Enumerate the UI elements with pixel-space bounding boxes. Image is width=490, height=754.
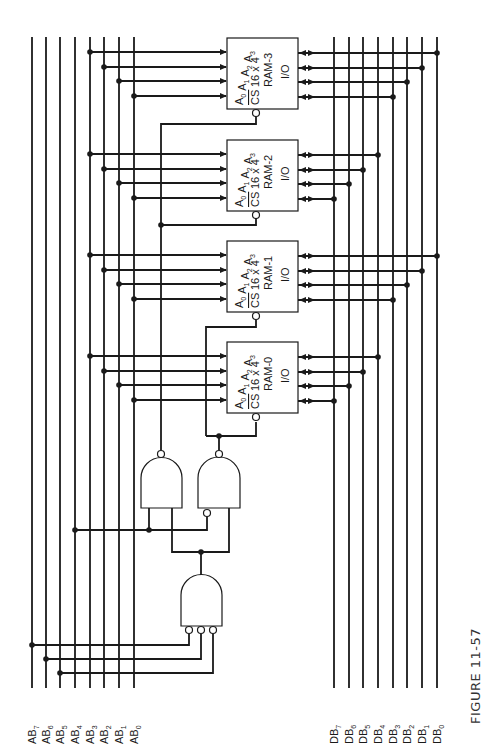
svg-text:DB2: DB2: [401, 725, 415, 744]
junction-cs-upper: [158, 222, 164, 228]
nand-output-bubble-lower: [216, 451, 223, 458]
inverter-bubble-ab4: [204, 510, 211, 517]
label-db6: DB6: [343, 725, 357, 744]
inverter-bubble-ab7: [186, 627, 193, 634]
svg-text:DB1: DB1: [416, 725, 430, 744]
cs-bubble: [253, 414, 260, 421]
label-db7: DB7: [328, 725, 342, 744]
wire-cs-ram2: [161, 218, 256, 225]
io-label: I/O: [279, 166, 291, 181]
nand-gate-upper-select: [141, 457, 182, 508]
svg-text:AB3: AB3: [84, 725, 98, 744]
inverter-bubble-ab5: [210, 627, 217, 634]
ram-chips: A0A1A2A3CS16 x 4RAM-3I/OA0A1A2A3CS16 x 4…: [87, 38, 440, 421]
ram-chip-ram-1: A0A1A2A3CS16 x 4RAM-1I/O: [87, 241, 440, 320]
wire-ab5-input: [60, 634, 213, 673]
junction-ab5: [57, 670, 63, 676]
junction-ab4-gate: [146, 527, 152, 533]
ram-name-label: RAM-0: [262, 357, 274, 391]
nand-gate-lower-select: [198, 457, 240, 508]
ram-chip-ram-2: A0A1A2A3CS16 x 4RAM-2I/O: [87, 140, 381, 219]
svg-text:AB1: AB1: [113, 725, 127, 744]
ram-size-label: 16 x 4: [249, 361, 261, 391]
io-label: I/O: [279, 267, 291, 282]
cs-bubble: [253, 212, 260, 219]
junction-cs-lower: [216, 433, 222, 439]
label-ab4: AB4: [69, 725, 83, 744]
label-db4: DB4: [372, 725, 386, 744]
svg-text:DB4: DB4: [372, 725, 386, 744]
bus-labels: AB7AB6AB5AB4AB3AB2AB1AB0DB7DB6DB5DB4DB3D…: [26, 725, 445, 744]
svg-text:DB3: DB3: [387, 725, 401, 744]
wire-ab7-input: [32, 634, 189, 645]
ram-size-label: 16 x 4: [249, 260, 261, 290]
wire-cs-ram0: [206, 422, 256, 436]
label-ab0: AB0: [128, 725, 142, 744]
cs-bubble: [253, 110, 260, 117]
chip-select-label: CS: [249, 293, 261, 308]
io-label: I/O: [279, 368, 291, 383]
label-db0: DB0: [431, 725, 445, 744]
svg-text:AB6: AB6: [40, 725, 54, 744]
ram-name-label: RAM-1: [262, 256, 274, 290]
ram-size-label: 16 x 4: [249, 159, 261, 189]
svg-text:DB7: DB7: [328, 725, 342, 744]
wire-ab4: [75, 517, 207, 530]
and-gate-enable: [181, 575, 222, 627]
label-ab1: AB1: [113, 725, 127, 744]
ram-chip-ram-0: A0A1A2A3CS16 x 4RAM-0I/O: [87, 342, 381, 421]
chip-select-label: CS: [249, 394, 261, 409]
label-ab2: AB2: [98, 725, 112, 744]
ram-name-label: RAM-3: [262, 53, 274, 87]
nand-output-bubble-upper: [158, 451, 165, 458]
svg-text:AB7: AB7: [26, 725, 40, 744]
svg-text:DB0: DB0: [431, 725, 445, 744]
ram-size-label: 16 x 4: [249, 57, 261, 87]
label-ab5: AB5: [54, 725, 68, 744]
svg-text:DB6: DB6: [343, 725, 357, 744]
address-bus: [32, 37, 134, 688]
svg-text:AB5: AB5: [54, 725, 68, 744]
figure-caption: FIGURE 11-57: [468, 628, 483, 724]
label-db1: DB1: [416, 725, 430, 744]
chip-select-label: CS: [249, 192, 261, 207]
label-ab7: AB7: [26, 725, 40, 744]
decoder-logic: [29, 117, 256, 676]
wire-ab6-input: [46, 634, 201, 659]
data-bus: [334, 37, 437, 688]
svg-text:AB0: AB0: [128, 725, 142, 744]
label-db3: DB3: [387, 725, 401, 744]
svg-text:DB5: DB5: [357, 725, 371, 744]
label-db5: DB5: [357, 725, 371, 744]
label-db2: DB2: [401, 725, 415, 744]
circuit-diagram: A0A1A2A3CS16 x 4RAM-3I/OA0A1A2A3CS16 x 4…: [0, 0, 490, 754]
chip-select-label: CS: [249, 90, 261, 105]
junction-enable: [198, 549, 204, 555]
label-ab3: AB3: [84, 725, 98, 744]
cs-bubble: [253, 313, 260, 320]
ram-chip-ram-3: A0A1A2A3CS16 x 4RAM-3I/O: [87, 38, 440, 117]
inverter-bubble-ab6: [198, 627, 205, 634]
junction-ab6: [43, 656, 49, 662]
junction-ab7: [29, 642, 35, 648]
junction-ab4: [72, 527, 78, 533]
svg-text:AB2: AB2: [98, 725, 112, 744]
label-ab6: AB6: [40, 725, 54, 744]
io-label: I/O: [279, 64, 291, 79]
ram-name-label: RAM-2: [262, 155, 274, 189]
svg-text:AB4: AB4: [69, 725, 83, 744]
